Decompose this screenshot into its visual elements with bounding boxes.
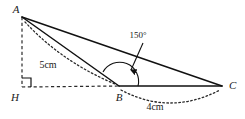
geometry-canvas: A H B C 5cm 4cm 150°: [0, 0, 245, 119]
measure-BC-arc: [121, 90, 220, 103]
angle-label-ABC: 150°: [129, 30, 147, 40]
edge-AC: [22, 17, 222, 86]
geometry-diagram: A H B C 5cm 4cm 150°: [0, 0, 245, 119]
edge-AB: [22, 17, 119, 86]
measure-label-BC: 4cm: [146, 101, 163, 112]
vertex-label-C: C: [229, 79, 237, 91]
measure-AB-arc: [25, 22, 115, 84]
right-angle-at-H-icon: [22, 78, 31, 87]
vertex-label-H: H: [10, 91, 20, 103]
measure-label-AB: 5cm: [39, 59, 56, 70]
edge-HB-dashed: [22, 86, 119, 87]
vertex-label-A: A: [12, 3, 20, 15]
angle-ABC-leader-icon: [131, 43, 143, 70]
vertex-label-B: B: [116, 91, 123, 103]
